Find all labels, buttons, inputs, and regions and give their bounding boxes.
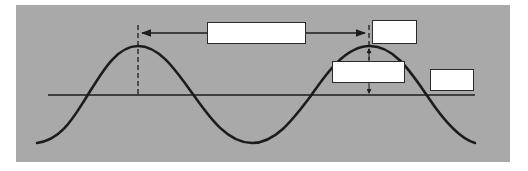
wavelength-label-box[interactable]: [207, 22, 306, 44]
crest-label-box[interactable]: [372, 20, 417, 44]
rest-position-label-box[interactable]: [430, 69, 474, 91]
amplitude-label-box[interactable]: [332, 61, 405, 83]
